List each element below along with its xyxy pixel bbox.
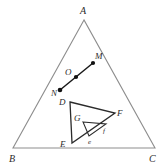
vertex-label-b: B [9,153,15,164]
point-label-m: M [94,51,103,61]
region-label-g: G [74,113,81,123]
vertex-label-e-lower: e [88,138,91,146]
vertex-label-d: D [58,97,66,107]
vertex-label-a: A [79,5,87,16]
geometry-figure: A B C M N O D E F G e f [0,0,165,166]
vertex-label-e-upper: E [59,139,66,149]
vertex-label-f-lower: f [103,127,106,135]
figure-canvas: A B C M N O D E F G e f [0,0,165,166]
triangle-abc-outline [13,20,155,148]
point-o-dot [74,75,78,79]
point-label-o: O [65,67,72,77]
point-label-n: N [50,88,58,98]
vertex-label-c: C [149,153,156,164]
point-n-dot [58,88,63,93]
point-m-dot [91,61,95,65]
vertex-label-f-upper: F [116,108,123,118]
